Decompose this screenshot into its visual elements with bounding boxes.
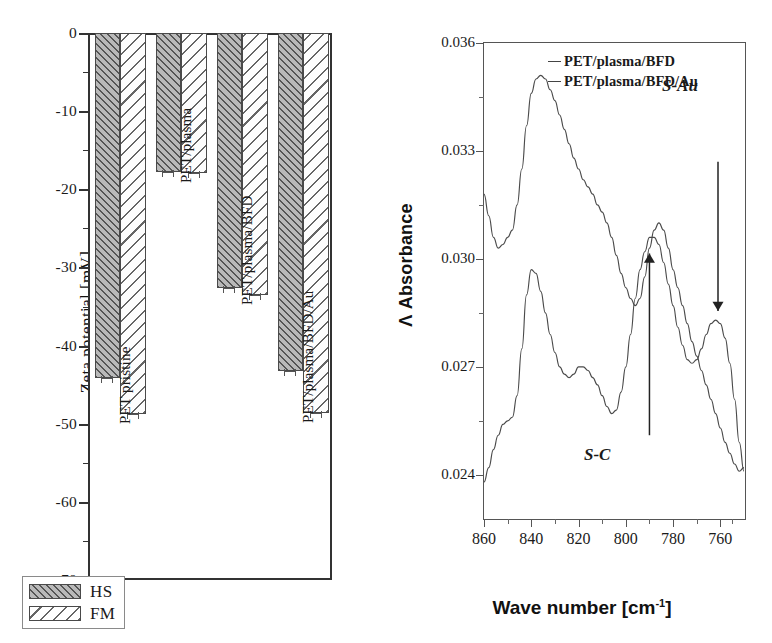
spectrum-curve-bfd-au [484, 237, 744, 482]
right-x-minor-tick [649, 519, 650, 524]
legend-item-hs: HS [29, 582, 115, 601]
right-x-minor-tick [732, 519, 733, 524]
left-y-tick-label: -30 [55, 258, 77, 276]
arrow-s-c [644, 254, 655, 436]
left-y-minor-tick [83, 307, 88, 308]
right-y-minor-tick [479, 97, 484, 98]
left-plot-area: 0-10-20-30-40-50-60-70PET pristinePET/pl… [88, 33, 332, 580]
annotation-s-c: S-C [584, 445, 610, 465]
left-y-tick [79, 346, 88, 348]
arrow-s-au [713, 162, 724, 311]
legend-swatch-hs [29, 584, 81, 599]
error-bar [223, 288, 235, 289]
left-y-tick-label: -10 [55, 102, 77, 120]
right-x-tick-label: 860 [472, 530, 496, 548]
right-y-tick-label: 0.027 [441, 358, 475, 375]
left-y-tick [79, 267, 88, 269]
right-x-tick [673, 519, 674, 527]
legend-label-hs: HS [90, 582, 113, 602]
annotation-s-au: S-Au [662, 76, 698, 96]
right-x-tick [626, 519, 627, 527]
zeta-potential-panel: Zeta potential [mV] 0-10-20-30-40-50-60-… [0, 0, 392, 643]
right-y-minor-tick [479, 313, 484, 314]
right-x-tick-label: 780 [661, 530, 685, 548]
right-y-tick [476, 259, 484, 260]
right-x-tick-label: 820 [567, 530, 591, 548]
right-x-tick [531, 519, 532, 527]
error-bar [101, 378, 113, 379]
error-bar [162, 172, 174, 173]
bar-category-label: PET/plasma/BFD [239, 195, 256, 304]
left-y-minor-tick [83, 463, 88, 464]
bar-category-label: PET/plasma/BFD/Au [300, 290, 317, 423]
left-y-tick [79, 111, 88, 113]
left-legend: HS FM [22, 576, 125, 629]
left-y-minor-tick [83, 72, 88, 73]
figure-root: Zeta potential [mV] 0-10-20-30-40-50-60-… [0, 0, 772, 643]
left-y-tick [79, 189, 88, 191]
right-x-tick-label: 760 [708, 530, 732, 548]
legend-swatch-fm [29, 606, 81, 621]
legend-item-fm: FM [29, 604, 115, 623]
right-x-tick [484, 519, 485, 527]
left-y-tick-label: -60 [55, 492, 77, 510]
right-y-tick [476, 151, 484, 152]
right-x-axis-title: Wave number [cm-1] [492, 597, 671, 619]
right-x-minor-tick [508, 519, 509, 524]
legend-label-bfd: PET/plasma/BFD [564, 53, 675, 70]
left-y-tick [79, 502, 88, 504]
right-x-minor-tick [555, 519, 556, 524]
x-title-tail: ] [665, 597, 671, 618]
right-x-tick-label: 840 [519, 530, 543, 548]
right-y-tick-label: 0.036 [441, 34, 475, 51]
x-title-exponent: -1 [655, 597, 665, 609]
right-plot-area: PET/plasma/BFD PET/plasma/BFD/Au S-Au S-… [483, 42, 746, 520]
legend-line-bfd-au [548, 81, 561, 82]
right-y-tick-label: 0.030 [441, 250, 475, 267]
legend-label-fm: FM [90, 604, 115, 624]
bar-category-label: PET/plasma [178, 108, 195, 183]
left-y-tick-label: 0 [69, 24, 77, 42]
error-bar [284, 371, 296, 372]
right-x-tick-label: 800 [614, 530, 638, 548]
left-y-minor-tick [83, 385, 88, 386]
right-y-tick-label: 0.024 [441, 465, 475, 482]
left-y-tick [79, 424, 88, 426]
right-y-tick-label: 0.033 [441, 142, 475, 159]
left-y-tick [79, 33, 88, 35]
right-y-minor-tick [479, 421, 484, 422]
left-y-tick-label: -50 [55, 414, 77, 432]
right-y-tick [476, 475, 484, 476]
x-title-main: Wave number [cm [492, 597, 655, 618]
right-x-tick [579, 519, 580, 527]
legend-line-bfd [548, 61, 561, 62]
left-y-minor-tick [83, 541, 88, 542]
left-y-minor-tick [83, 228, 88, 229]
right-x-minor-tick [697, 519, 698, 524]
left-y-tick-label: -20 [55, 180, 77, 198]
right-y-minor-tick [479, 205, 484, 206]
ftir-spectrum-panel: Λ Absorbance Wave number [cm-1] PET/plas… [392, 0, 772, 643]
bar-hs-0 [95, 33, 121, 378]
bar-category-label: PET pristine [117, 347, 134, 425]
right-x-minor-tick [602, 519, 603, 524]
spectrum-svg [484, 43, 744, 518]
right-y-tick [476, 43, 484, 44]
legend-item-bfd: PET/plasma/BFD [548, 51, 698, 71]
left-y-tick-label: -40 [55, 336, 77, 354]
left-y-minor-tick [83, 150, 88, 151]
right-y-tick [476, 367, 484, 368]
right-x-tick [720, 519, 721, 527]
right-y-axis-title: Λ Absorbance [396, 203, 417, 326]
